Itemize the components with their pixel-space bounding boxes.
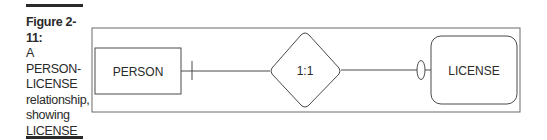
license-entity: LICENSE	[431, 36, 517, 104]
er-diagram: PERSON 1:1 LICENSE	[0, 0, 547, 140]
license-entity-label: LICENSE	[448, 64, 499, 78]
person-entity-label: PERSON	[113, 65, 164, 79]
optional-cardinality-circle-icon	[417, 61, 425, 80]
person-entity: PERSON	[95, 48, 181, 94]
relationship-diamond: 1:1	[271, 33, 340, 107]
relationship-label: 1:1	[297, 64, 314, 78]
